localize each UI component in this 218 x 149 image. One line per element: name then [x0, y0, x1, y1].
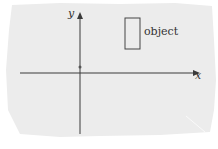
object-label: object [144, 25, 178, 38]
diagram-canvas [0, 0, 218, 149]
x-axis-label: x [195, 69, 201, 82]
torn-paper [6, 3, 216, 137]
y-axis-label: y [68, 7, 74, 20]
origin-point [79, 66, 82, 69]
